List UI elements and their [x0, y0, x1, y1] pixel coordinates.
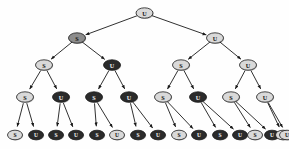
tree-node-u[interactable]: U: [53, 92, 71, 103]
tree-node-s[interactable]: S: [248, 130, 264, 140]
tree-edge: [268, 103, 279, 127]
node-label: S: [136, 132, 139, 138]
tree-node-u[interactable]: U: [69, 130, 85, 140]
tree-node-u[interactable]: U: [190, 92, 208, 103]
node-label: U: [74, 132, 78, 138]
node-label: S: [253, 132, 256, 138]
node-label: U: [115, 132, 119, 138]
tree-node-u[interactable]: U: [151, 130, 167, 140]
node-label: S: [54, 132, 57, 138]
tree-node-u[interactable]: U: [257, 92, 275, 103]
node-label: U: [59, 94, 64, 101]
tree-node-s[interactable]: S: [213, 130, 229, 140]
node-label: U: [285, 132, 289, 138]
tree-node-s[interactable]: S: [173, 60, 191, 71]
tree-node-s[interactable]: S: [86, 92, 104, 103]
node-label: S: [161, 94, 165, 101]
tree-edge: [167, 102, 193, 129]
edge-layer: [17, 15, 282, 129]
tree-edge: [115, 71, 125, 89]
node-label: S: [218, 132, 221, 138]
tree-edge: [97, 102, 112, 127]
tree-edge: [184, 71, 194, 89]
node-layer: USUSUSUSUSUSUSUSUSUSUSUSUSUSUSU: [8, 8, 290, 141]
tree-edge: [130, 103, 136, 126]
node-label: U: [238, 132, 242, 138]
node-label: U: [197, 132, 201, 138]
tree-node-u[interactable]: U: [104, 60, 122, 71]
tree-edge: [99, 71, 109, 89]
tree-node-u[interactable]: U: [110, 130, 126, 140]
tree-edge: [82, 42, 105, 59]
tree-node-u[interactable]: U: [121, 92, 139, 103]
tree-edge: [51, 42, 72, 59]
tree-node-s[interactable]: S: [17, 92, 35, 103]
tree-edge: [151, 15, 207, 35]
tree-edge: [165, 103, 175, 127]
tree-node-s[interactable]: S: [172, 130, 188, 140]
node-label: S: [42, 62, 46, 69]
tree-node-s[interactable]: S: [131, 130, 147, 140]
tree-edge: [47, 71, 57, 89]
node-label: U: [110, 62, 115, 69]
node-label: U: [127, 94, 132, 101]
tree-node-s[interactable]: S: [8, 130, 24, 140]
tree-edge: [251, 71, 261, 89]
tree-edge: [268, 103, 282, 128]
node-label: S: [229, 94, 233, 101]
tree-edge: [235, 71, 245, 89]
tree-edge: [220, 42, 241, 59]
node-label: S: [23, 94, 27, 101]
tree-edge: [63, 103, 72, 127]
node-label: S: [92, 94, 96, 101]
node-label: U: [196, 94, 201, 101]
tree-node-s[interactable]: S: [36, 60, 54, 71]
tree-edge: [57, 103, 60, 126]
node-label: U: [142, 10, 147, 17]
node-label: U: [246, 62, 251, 69]
node-label: U: [34, 132, 38, 138]
tree-node-s[interactable]: S: [90, 130, 106, 140]
tree-node-u[interactable]: U: [233, 130, 249, 140]
tree-edge: [168, 71, 178, 89]
tree-node-s[interactable]: S: [49, 130, 65, 140]
node-label: S: [75, 35, 79, 42]
tree-node-u[interactable]: U: [192, 130, 208, 140]
binary-tree-figure: USUSUSUSUSUSUSUSUSUSUSUSUSUSUSU: [0, 0, 289, 149]
tree-edge: [95, 103, 97, 126]
node-label: U: [270, 132, 274, 138]
tree-node-u[interactable]: U: [29, 130, 45, 140]
tree-node-u[interactable]: U: [207, 33, 225, 44]
node-label: S: [95, 132, 98, 138]
node-label: S: [177, 132, 180, 138]
tree-edge: [27, 103, 34, 126]
node-label: S: [179, 62, 183, 69]
node-label: S: [13, 132, 16, 138]
node-label: U: [213, 35, 218, 42]
tree-node-u[interactable]: U: [240, 60, 258, 71]
tree-edge: [234, 102, 250, 127]
tree-edge: [188, 42, 210, 59]
tree-node-u[interactable]: U: [136, 8, 154, 19]
tree-edge: [17, 103, 23, 126]
tree-node-s[interactable]: S: [69, 33, 87, 44]
tree-edge: [30, 71, 41, 90]
tree-edge: [203, 101, 234, 129]
tree-edge: [86, 15, 139, 35]
node-label: U: [156, 132, 160, 138]
tree-node-s[interactable]: S: [223, 92, 241, 103]
tree-canvas: USUSUSUSUSUSUSUSUSUSUSUSUSUSUSU: [0, 0, 289, 149]
tree-edge: [236, 101, 266, 129]
node-label: U: [263, 94, 268, 101]
tree-node-s[interactable]: S: [155, 92, 173, 103]
